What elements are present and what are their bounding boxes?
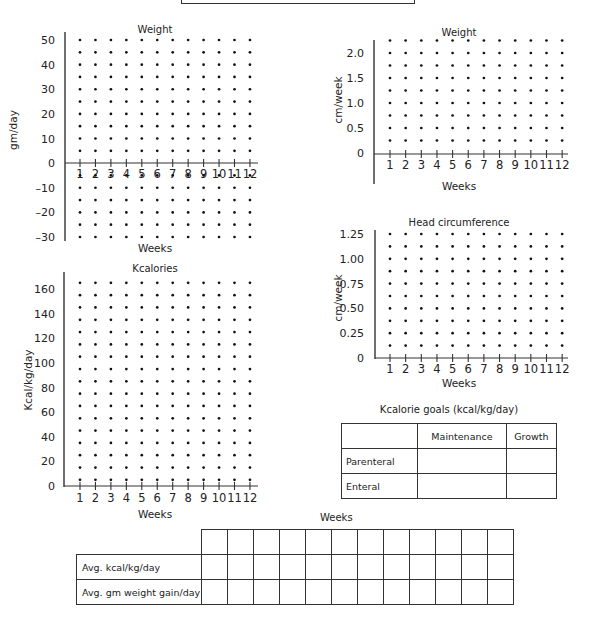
summary-cell[interactable] <box>384 555 410 580</box>
x-tick-label: 7 <box>480 362 487 376</box>
kcalorie-goals-table: Maintenance Growth Parenteral Enteral <box>341 423 557 499</box>
x-tick-label: 7 <box>169 167 176 181</box>
summary-cell[interactable] <box>280 580 306 605</box>
weekly-summary-table: Avg. kcal/kg/dayAvg. gm weight gain/day <box>76 529 514 605</box>
summary-cell[interactable] <box>462 580 488 605</box>
summary-cell[interactable] <box>358 555 384 580</box>
summary-week-header-cell[interactable] <box>202 530 228 555</box>
y-tick-label: 0 <box>48 480 55 493</box>
y-tick-label: 2.0 <box>347 47 365 60</box>
summary-week-header-cell[interactable] <box>410 530 436 555</box>
y-tick-label: –30 <box>36 231 56 244</box>
summary-cell[interactable] <box>384 580 410 605</box>
x-tick-label: 8 <box>496 362 503 376</box>
y-tick-label: 0.75 <box>340 278 365 291</box>
x-tick-label: 1 <box>76 491 83 505</box>
summary-cell[interactable] <box>410 555 436 580</box>
summary-week-header-cell[interactable] <box>332 530 358 555</box>
summary-row-label: Avg. kcal/kg/day <box>77 555 202 580</box>
goals-cell-enteral-growth[interactable] <box>506 474 556 499</box>
x-tick-label: 9 <box>512 362 519 376</box>
summary-cell[interactable] <box>410 580 436 605</box>
goals-header-growth: Growth <box>506 424 556 449</box>
goals-cell-enteral-maintenance[interactable] <box>418 474 506 499</box>
summary-cell[interactable] <box>488 580 514 605</box>
goals-header-blank <box>342 424 418 449</box>
summary-cell[interactable] <box>306 580 332 605</box>
x-tick-label: 8 <box>184 491 191 505</box>
x-tick-label: 7 <box>169 491 176 505</box>
x-tick-label: 5 <box>138 491 145 505</box>
y-axis-label: gm/day <box>7 110 19 150</box>
x-tick-label: 12 <box>243 491 258 505</box>
chart-title: Weight <box>138 24 173 35</box>
x-tick-label: 3 <box>418 362 425 376</box>
x-tick-label: 10 <box>524 158 539 172</box>
summary-cell[interactable] <box>228 555 254 580</box>
summary-week-header-cell[interactable] <box>488 530 514 555</box>
summary-cell[interactable] <box>254 555 280 580</box>
y-tick-label: 140 <box>34 308 55 321</box>
x-tick-label: 8 <box>496 158 503 172</box>
y-tick-label: 0 <box>48 157 55 170</box>
summary-week-header-cell[interactable] <box>358 530 384 555</box>
x-tick-label: 1 <box>386 158 393 172</box>
x-tick-label: 2 <box>402 362 409 376</box>
summary-week-header-cell[interactable] <box>280 530 306 555</box>
x-tick-label: 10 <box>212 167 227 181</box>
x-tick-label: 6 <box>154 167 161 181</box>
y-tick-label: 1.00 <box>340 253 365 266</box>
x-tick-label: 9 <box>200 491 207 505</box>
summary-week-header-cell[interactable] <box>228 530 254 555</box>
summary-week-header-cell[interactable] <box>462 530 488 555</box>
x-tick-label: 6 <box>465 158 472 172</box>
x-tick-label: 11 <box>227 491 242 505</box>
goals-cell-parenteral-maintenance[interactable] <box>418 449 506 474</box>
x-tick-label: 12 <box>243 167 258 181</box>
y-tick-label: 0.5 <box>347 122 365 135</box>
chart-title: Head circumference <box>409 217 510 228</box>
summary-cell[interactable] <box>436 580 462 605</box>
summary-cell[interactable] <box>332 555 358 580</box>
y-axis-label: Kcal/kg/day <box>22 349 34 410</box>
y-tick-label: 50 <box>41 34 55 47</box>
summary-cell[interactable] <box>358 580 384 605</box>
y-tick-label: 0.25 <box>340 327 365 340</box>
summary-weeks-title: Weeks <box>320 512 353 523</box>
x-tick-label: 2 <box>402 158 409 172</box>
x-tick-label: 9 <box>200 167 207 181</box>
y-tick-label: 120 <box>34 332 55 345</box>
summary-cell[interactable] <box>436 555 462 580</box>
summary-cell[interactable] <box>306 555 332 580</box>
summary-week-header-cell[interactable] <box>306 530 332 555</box>
y-tick-label: 20 <box>41 455 55 468</box>
y-tick-label: 60 <box>41 406 55 419</box>
summary-cell[interactable] <box>462 555 488 580</box>
summary-cell[interactable] <box>488 555 514 580</box>
y-tick-label: 0 <box>357 147 364 160</box>
summary-cell[interactable] <box>280 555 306 580</box>
summary-cell[interactable] <box>228 580 254 605</box>
summary-cell[interactable] <box>332 580 358 605</box>
summary-week-header-cell[interactable] <box>254 530 280 555</box>
y-tick-label: 100 <box>34 357 55 370</box>
goals-cell-parenteral-growth[interactable] <box>506 449 556 474</box>
x-axis-label: Weeks <box>138 508 172 520</box>
y-tick-label: 80 <box>41 382 55 395</box>
x-tick-label: 3 <box>418 158 425 172</box>
goals-row-label: Parenteral <box>342 449 418 474</box>
x-axis-label: Weeks <box>442 180 476 192</box>
summary-cell[interactable] <box>254 580 280 605</box>
summary-cell[interactable] <box>202 555 228 580</box>
x-tick-label: 4 <box>123 167 130 181</box>
summary-cell[interactable] <box>202 580 228 605</box>
y-tick-label: 40 <box>41 431 55 444</box>
summary-week-header-cell[interactable] <box>436 530 462 555</box>
x-tick-label: 4 <box>433 362 440 376</box>
summary-week-header-cell[interactable] <box>384 530 410 555</box>
y-tick-label: 1.5 <box>347 72 365 85</box>
x-tick-label: 7 <box>480 158 487 172</box>
x-tick-label: 9 <box>512 158 519 172</box>
y-tick-label: 10 <box>41 133 55 146</box>
y-tick-label: 30 <box>41 83 55 96</box>
